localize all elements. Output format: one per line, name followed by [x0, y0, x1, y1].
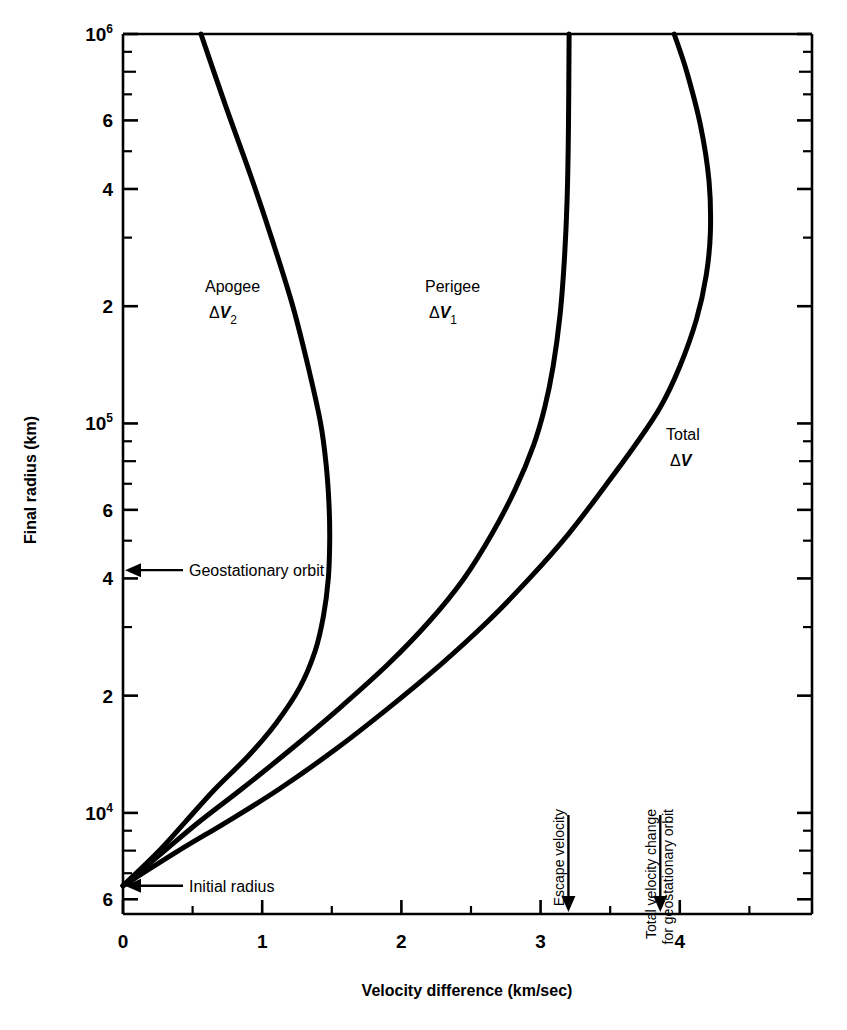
y-tick-label-minor: 4 [102, 179, 113, 200]
x-tick-label: 0 [118, 931, 129, 952]
x-tick-label: 3 [535, 931, 546, 952]
x-tick-label: 1 [257, 931, 268, 952]
y-tick-label-minor: 2 [102, 686, 113, 707]
curve-label-perigee: Perigee [425, 278, 480, 295]
curve-label-apogee: Apogee [205, 278, 260, 295]
delta-v-vs-final-radius-chart: 1061051046426426 01234 ApogeeΔV2PerigeeΔ… [0, 0, 847, 1030]
x-axis-title: Velocity difference (km/sec) [362, 982, 573, 999]
curve-sublabel-total: ΔV [670, 452, 693, 469]
geostationary-orbit-label: Geostationary orbit [189, 562, 325, 579]
curve-label-total: Total [666, 426, 700, 443]
x-tick-label: 2 [396, 931, 407, 952]
figure-container: 1061051046426426 01234 ApogeeΔV2PerigeeΔ… [0, 0, 847, 1030]
y-tick-label-minor: 6 [102, 500, 113, 521]
chart-background [0, 0, 847, 1030]
initial-radius-label: Initial radius [189, 878, 274, 895]
y-axis-title: Final radius (km) [22, 416, 39, 544]
total-velocity-change-label-line1: Total velocity change [643, 809, 659, 939]
total-velocity-change-label-line2: for geostationary orbit [660, 809, 676, 945]
y-tick-label-minor: 6 [102, 110, 113, 131]
escape-velocity-label-line1: Escape velocity [551, 809, 567, 906]
y-tick-label-minor: 4 [102, 568, 113, 589]
y-tick-label-minor: 2 [102, 296, 113, 317]
y-tick-label-minor: 6 [102, 889, 113, 910]
